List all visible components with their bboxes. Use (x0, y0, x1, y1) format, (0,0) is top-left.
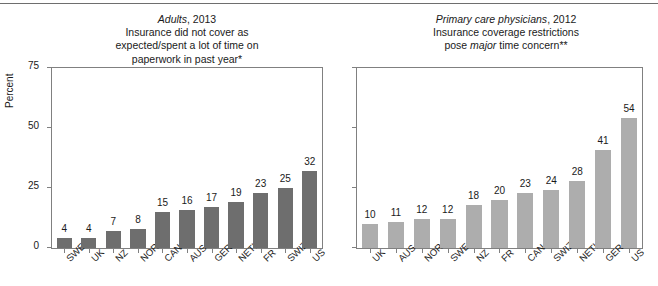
bar-slot: 16 AUS (175, 68, 200, 248)
bar[interactable]: 23 (253, 193, 268, 248)
bar-value: 19 (231, 187, 242, 198)
y-tick-label-50: 50 (28, 120, 39, 131)
x-axis-label: NZ (113, 247, 130, 264)
panel-primary-care-physicians-2012: Primary care physicians, 2012 Insurance … (340, 4, 658, 286)
bar-value: 41 (598, 135, 609, 146)
bar-slot: 17 GER (199, 68, 224, 248)
bar[interactable]: 25 (278, 188, 293, 248)
bar[interactable]: 15 (155, 212, 170, 248)
bar-slot: 10 UK (357, 68, 383, 248)
bar[interactable]: 23 (517, 193, 533, 248)
bar-value: 23 (255, 178, 266, 189)
bar-value: 20 (494, 185, 505, 196)
left-bar-group: 4 SWE 4 UK 7 NZ (52, 68, 322, 248)
y-tick-label-25: 25 (28, 180, 39, 191)
bar-value: 15 (157, 197, 168, 208)
bar[interactable]: 18 (466, 205, 482, 248)
x-tick (162, 248, 163, 253)
figure-two-panel-bar-charts: Adults, 2013 Insurance did not cover as … (0, 4, 658, 286)
x-axis-label: UK (89, 247, 106, 264)
bar-value: 18 (468, 190, 479, 201)
bar[interactable]: 16 (179, 210, 194, 248)
bar-value: 28 (572, 166, 583, 177)
x-tick (551, 248, 552, 253)
bar-value: 4 (86, 223, 92, 234)
x-tick (236, 248, 237, 253)
bar-value: 16 (181, 195, 192, 206)
bar-value: 12 (416, 204, 427, 215)
x-tick (138, 248, 139, 253)
right-title-subject: Primary care physicians (436, 13, 547, 25)
x-tick (310, 248, 311, 253)
x-tick (422, 248, 423, 253)
left-panel-title: Adults, 2013 Insurance did not cover as … (0, 13, 340, 66)
bar-value: 4 (61, 223, 67, 234)
right-title-emphasis: major (470, 39, 496, 51)
right-panel-title: Primary care physicians, 2012 Insurance … (340, 13, 658, 53)
bar-slot: 4 SWE (52, 68, 77, 248)
bar[interactable]: 17 (204, 207, 219, 248)
bar-slot: 12 SWE (435, 68, 461, 248)
x-tick (212, 248, 213, 253)
bar[interactable]: 4 (57, 238, 72, 248)
x-tick (89, 248, 90, 253)
bar-slot: 4 UK (77, 68, 102, 248)
bar-value: 17 (206, 192, 217, 203)
bar[interactable]: 10 (362, 224, 378, 248)
bar-value: 25 (280, 173, 291, 184)
bar-value: 8 (135, 214, 141, 225)
bar-value: 32 (304, 156, 315, 167)
bar[interactable]: 11 (388, 222, 404, 248)
x-axis-label: US (310, 247, 327, 264)
bar-slot: 24 SWIZ (538, 68, 564, 248)
x-tick (285, 248, 286, 253)
x-tick (396, 248, 397, 253)
left-title-line2: Insurance did not cover as (125, 26, 248, 38)
bar[interactable]: 4 (81, 238, 96, 248)
x-tick (629, 248, 630, 253)
bar[interactable]: 19 (228, 202, 243, 248)
bar-slot: 8 NOR (126, 68, 151, 248)
right-title-line3-post: time concern** (496, 39, 567, 51)
panel-adults-2013: Adults, 2013 Insurance did not cover as … (0, 4, 340, 286)
x-tick (187, 248, 188, 253)
x-axis-label: US (629, 247, 646, 264)
bar[interactable]: 28 (569, 181, 585, 248)
x-tick (499, 248, 500, 253)
x-tick (448, 248, 449, 253)
bar-value: 23 (520, 178, 531, 189)
bar[interactable]: 24 (543, 190, 559, 248)
bar-value: 54 (623, 103, 634, 114)
right-bar-group: 10 UK 11 AUS 12 NOR (357, 68, 642, 248)
x-tick (603, 248, 604, 253)
right-title-line3-pre: pose (444, 39, 470, 51)
x-tick (113, 248, 114, 253)
bar[interactable]: 12 (440, 219, 456, 248)
x-tick (64, 248, 65, 253)
bar[interactable]: 8 (130, 229, 145, 248)
bar[interactable]: 12 (414, 219, 430, 248)
bar-slot: 41 GER (590, 68, 616, 248)
x-axis-label: NZ (474, 247, 491, 264)
bar[interactable]: 32 (302, 171, 317, 248)
x-tick (261, 248, 262, 253)
x-axis-label: UK (370, 247, 387, 264)
right-plot-area: 10 UK 11 AUS 12 NOR (356, 67, 643, 249)
bar[interactable]: 20 (491, 200, 507, 248)
bar-slot: 11 AUS (383, 68, 409, 248)
bar[interactable]: 7 (106, 231, 121, 248)
bar-slot: 28 NETH (564, 68, 590, 248)
bar[interactable]: 54 (621, 118, 637, 248)
bar[interactable]: 41 (595, 150, 611, 248)
bar-value: 11 (391, 207, 401, 218)
bar-slot: 20 FR (487, 68, 513, 248)
bar-slot: 23 CAN (512, 68, 538, 248)
x-tick (370, 248, 371, 253)
left-title-line3: expected/spent a lot of time on (115, 39, 258, 51)
bar-value: 12 (442, 204, 453, 215)
bar-slot: 18 NZ (461, 68, 487, 248)
x-axis-label: FR (499, 247, 516, 264)
bar-slot: 7 NZ (101, 68, 126, 248)
left-plot-area: 75 50 25 0 4 SWE (51, 67, 323, 249)
bar-slot: 32 US (297, 68, 322, 248)
